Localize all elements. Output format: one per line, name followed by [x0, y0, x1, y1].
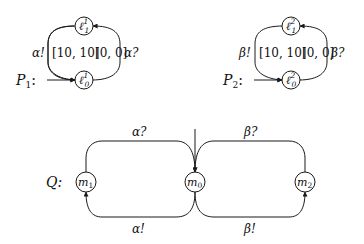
automaton-name-p1: P1:	[15, 72, 36, 90]
state-l0-1-label: ℓ10	[79, 71, 89, 89]
edge-q-m1-to-m0	[86, 141, 195, 173]
edge-q-m0-to-m2	[195, 192, 305, 217]
edge-label-q-beta-send: β!	[243, 222, 256, 236]
state-l1-2-label: ℓ21	[286, 17, 296, 35]
edge-label-beta-send: β!	[238, 46, 251, 60]
edge-label-beta-recv: β?	[330, 46, 345, 60]
edge-label-alpha-send: α!	[32, 46, 45, 60]
timed-automata-diagram: ℓ11 ℓ10 α! [10, 10] [0, 0] α? P1: ℓ21 ℓ2…	[0, 0, 364, 244]
automaton-name-p2: P2:	[222, 72, 243, 90]
interval-10-10: [10, 10]	[259, 46, 307, 60]
state-l1-1-label: ℓ11	[79, 17, 89, 35]
edge-q-m0-to-m1	[86, 192, 195, 217]
automaton-p2: ℓ21 ℓ20 β! [10, 10] [0, 0] β? P2:	[222, 17, 345, 90]
edge-q-m2-to-m0	[195, 141, 305, 173]
automaton-q: m1 m0 m2 α? α! β? β! Q:	[46, 125, 315, 236]
automaton-name-q: Q:	[46, 174, 62, 190]
interval-0-0: [0, 0]	[302, 46, 334, 60]
edge-label-q-alpha-send: α!	[132, 222, 145, 236]
state-l0-2-label: ℓ20	[286, 71, 296, 89]
edge-label-alpha-recv: α?	[124, 46, 139, 60]
automaton-p1: ℓ11 ℓ10 α! [10, 10] [0, 0] α? P1:	[15, 17, 139, 90]
edge-label-q-alpha-recv: α?	[132, 125, 147, 139]
interval-0-0: [0, 0]	[95, 46, 127, 60]
edge-label-q-beta-recv: β?	[243, 125, 258, 139]
interval-10-10: [10, 10]	[52, 46, 100, 60]
